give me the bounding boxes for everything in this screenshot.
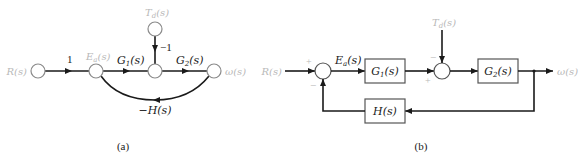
gain-g1: G1(s) <box>117 54 145 68</box>
node-disturbance <box>148 22 162 36</box>
gain-disturbance: −1 <box>160 41 172 53</box>
arrow-g1-out-icon <box>427 68 434 74</box>
sign-sum1-feedback: − <box>310 79 316 91</box>
arrow-disturbance-icon <box>439 56 445 63</box>
signal-error-label: Ea(s) <box>334 54 361 68</box>
label-input: R(s) <box>6 66 28 77</box>
gain-input: 1 <box>67 53 73 65</box>
wire-feedback-in <box>323 79 365 111</box>
caption-a: (a) <box>117 140 130 153</box>
arrow-feedback-icon <box>153 97 160 103</box>
caption-b: (b) <box>415 140 428 153</box>
arrow-sum2-out-icon <box>471 68 478 74</box>
summing-junction-1 <box>315 63 331 79</box>
sign-sum2-forward: + <box>425 75 431 86</box>
sign-sum1-input: + <box>306 56 312 67</box>
node-sum <box>148 64 162 78</box>
arrow-g2-icon <box>182 68 189 74</box>
label-disturbance: Td(s) <box>145 7 169 20</box>
arrow-input-icon <box>65 68 72 74</box>
label-output: ω(s) <box>225 66 246 77</box>
block-diagram-b: G1(s) G2(s) H(s) R(s) Ea(s) Td(s) ω(s) +… <box>261 17 579 153</box>
figure-canvas: R(s) Ea(s) Td(s) ω(s) 1 G1(s) G2(s) −1 −… <box>0 0 585 159</box>
gain-g2: G2(s) <box>176 54 204 68</box>
block-g1-label: G1(s) <box>371 65 399 79</box>
arrow-feedback-icon <box>405 108 412 114</box>
block-h-label: H(s) <box>372 105 397 118</box>
arrow-input-icon <box>308 68 315 74</box>
label-error: Ea(s) <box>85 51 111 64</box>
arrow-output-icon <box>546 68 553 74</box>
signal-flow-graph-a: R(s) Ea(s) Td(s) ω(s) 1 G1(s) G2(s) −1 −… <box>6 7 247 153</box>
signal-disturbance-label: Td(s) <box>432 17 456 30</box>
signal-input-label: R(s) <box>261 66 283 77</box>
arrow-g1-icon <box>123 68 130 74</box>
branch-feedback <box>101 76 209 100</box>
summing-junction-2 <box>434 63 450 79</box>
arrow-feedback-in-icon <box>320 79 326 86</box>
node-input <box>31 64 45 78</box>
sign-sum2-disturbance: − <box>430 51 436 63</box>
node-error <box>89 64 103 78</box>
arrow-error-icon <box>358 68 365 74</box>
block-g2-label: G2(s) <box>484 65 512 79</box>
arrow-disturbance-icon <box>152 45 158 52</box>
node-output <box>207 64 221 78</box>
signal-output-label: ω(s) <box>557 66 578 77</box>
gain-feedback: −H(s) <box>138 104 171 117</box>
